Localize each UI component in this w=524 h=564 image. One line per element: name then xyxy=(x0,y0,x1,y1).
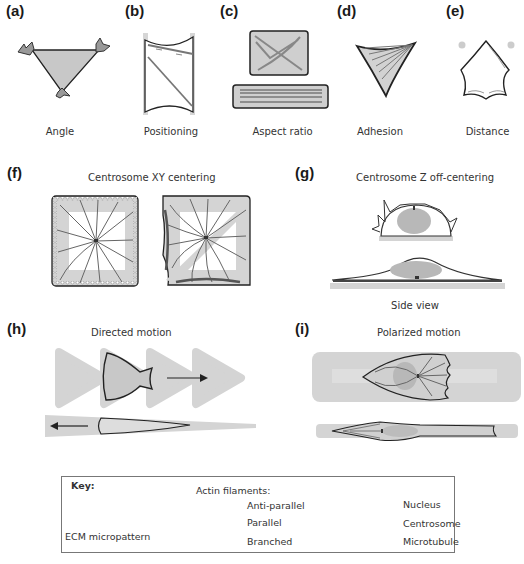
key-actin-heading: Actin filaments: xyxy=(196,485,270,496)
panel-d-adhesion-drawing xyxy=(357,43,415,96)
panel-i-polarized-motion-drawing xyxy=(312,352,521,441)
key-parallel: Parallel xyxy=(247,517,282,528)
key-microtubule: Microtubule xyxy=(403,536,459,547)
legend-key: Key: ECM micropattern Actin filaments: A… xyxy=(61,476,455,553)
panel-a-angle-drawing xyxy=(18,38,110,98)
panel-f-xy-centering-drawing xyxy=(52,196,250,286)
panel-e-distance-drawing xyxy=(459,41,515,99)
key-ecm-label: ECM micropattern xyxy=(65,531,150,542)
panel-g-z-off-centering-drawing xyxy=(330,200,505,289)
key-heading: Key: xyxy=(71,480,95,491)
key-anti-parallel: Anti-parallel xyxy=(247,500,305,511)
key-branched: Branched xyxy=(247,536,292,547)
panel-c-aspect-ratio-drawing xyxy=(233,31,328,108)
panel-h-directed-motion-drawing xyxy=(45,352,256,437)
panel-b-positioning-drawing xyxy=(143,33,195,115)
key-centrosome: Centrosome xyxy=(403,518,461,529)
key-nucleus: Nucleus xyxy=(403,499,441,510)
